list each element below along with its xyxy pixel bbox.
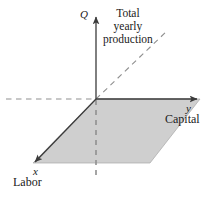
production-caption: Total yearly production <box>103 7 153 46</box>
production-figure: Q y Capital x Labor Total yearly product… <box>0 0 213 199</box>
labor-axis-name-label: Labor <box>13 176 42 189</box>
production-caption-line-2: yearly <box>103 20 153 33</box>
q-axis-label: Q <box>80 8 88 20</box>
production-caption-line-3: production <box>103 33 153 46</box>
production-caption-line-1: Total <box>103 7 153 20</box>
capital-axis-name-label: Capital <box>165 113 200 126</box>
shaded-plane <box>33 99 200 163</box>
